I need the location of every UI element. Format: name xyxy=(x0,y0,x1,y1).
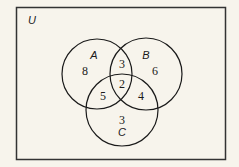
venn-diagram: U A B C 8 6 3 3 5 4 2 xyxy=(0,0,239,167)
region-a-c: 5 xyxy=(100,89,106,103)
region-a-b-c: 2 xyxy=(119,77,125,91)
region-a-only: 8 xyxy=(82,64,88,78)
region-b-c: 4 xyxy=(138,89,144,103)
region-b-only: 6 xyxy=(152,64,158,78)
universe-label: U xyxy=(28,14,36,26)
set-label-c: C xyxy=(118,126,126,138)
region-c-only: 3 xyxy=(119,113,125,127)
set-label-b: B xyxy=(142,49,149,61)
region-a-b: 3 xyxy=(119,57,125,71)
set-label-a: A xyxy=(89,49,97,61)
